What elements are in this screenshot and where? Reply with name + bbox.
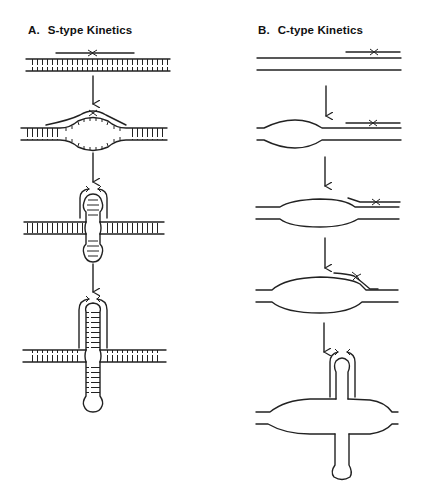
- panel-a-step-1: [26, 50, 170, 71]
- panel-b-step-1: [257, 49, 401, 70]
- panel-a-step-3: [24, 186, 164, 262]
- panel-a-step-2: [21, 110, 167, 151]
- panel-a-step-4: [23, 296, 166, 412]
- panel-b-step-5: [256, 349, 398, 480]
- panel-b-step-2: [257, 120, 401, 148]
- panel-b-step-3: [256, 198, 400, 227]
- kinetics-diagram: [0, 0, 421, 500]
- panel-b-step-4: [256, 272, 398, 313]
